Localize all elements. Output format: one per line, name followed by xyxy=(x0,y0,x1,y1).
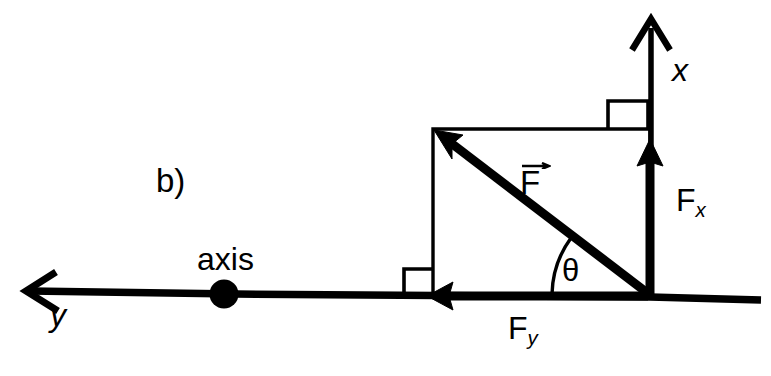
force-vector-label: F xyxy=(520,162,551,199)
force-y-subscript: y xyxy=(528,326,538,349)
force-y-label: Fy xyxy=(508,312,538,349)
force-x-label: Fx xyxy=(676,184,706,221)
force-y-arrowhead-icon xyxy=(427,282,453,310)
force-x-subscript: x xyxy=(696,198,706,221)
force-x-arrowhead-icon xyxy=(637,139,663,166)
rotation-axis-dot-icon xyxy=(210,280,239,309)
right-angle-square-top-icon xyxy=(608,101,648,128)
force-vector-letter: F xyxy=(520,164,540,201)
y-axis-label: y xyxy=(50,299,66,331)
force-y-letter: F xyxy=(508,310,528,346)
force-vector-diagram: b) axis y x θ F Fx Fy xyxy=(0,0,771,376)
force-x-letter: F xyxy=(676,182,696,218)
x-axis-label: x xyxy=(672,54,688,86)
axis-label: axis xyxy=(197,243,254,275)
angle-theta-label: θ xyxy=(562,255,579,286)
panel-label: b) xyxy=(156,164,185,197)
diagram-canvas xyxy=(0,0,771,376)
